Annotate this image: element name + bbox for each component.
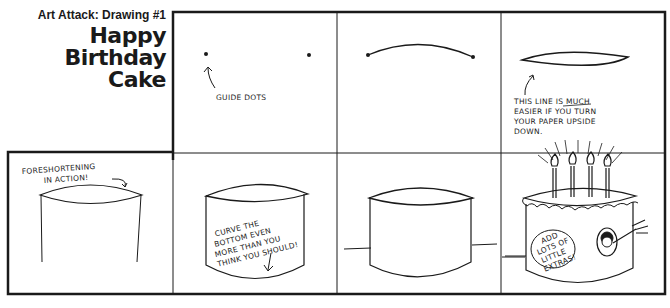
- svg-text:IN ACTION!: IN ACTION!: [44, 173, 89, 185]
- guide-dot-left: [204, 52, 208, 56]
- party-blower-icon: [613, 220, 648, 243]
- panel-4: FORESHORTENING IN ACTION!: [22, 162, 142, 262]
- panel-borders: [8, 12, 665, 294]
- panel-7: ADD LOTS OF LITTLE EXTRAS!: [505, 140, 648, 283]
- glow-rays-icon: [538, 140, 622, 163]
- candles-icon: [551, 152, 611, 198]
- svg-text:EASIER IF YOU TURN: EASIER IF YOU TURN: [514, 107, 596, 116]
- panel-3: THIS LINE IS MUCH EASIER IF YOU TURN YOU…: [513, 52, 628, 136]
- caption: GUIDE DOTS: [216, 93, 266, 102]
- arrow-icon: [525, 75, 534, 95]
- panel-1: GUIDE DOTS: [204, 52, 311, 102]
- svg-text:DOWN.: DOWN.: [514, 127, 543, 136]
- panel-2: [366, 44, 475, 59]
- arrow-icon: [112, 179, 127, 187]
- svg-text:YOUR PAPER UPSIDE: YOUR PAPER UPSIDE: [513, 117, 596, 126]
- arrow-icon: [204, 67, 215, 88]
- panel-6: [344, 188, 525, 277]
- panel-5: CURVE THE BOTTOM EVEN MORE THAN YOU THIN…: [206, 184, 308, 278]
- guide-dot-right: [307, 53, 311, 57]
- comic-grid: GUIDE DOTS THIS LINE IS MUCH EASIER IF Y…: [0, 0, 670, 308]
